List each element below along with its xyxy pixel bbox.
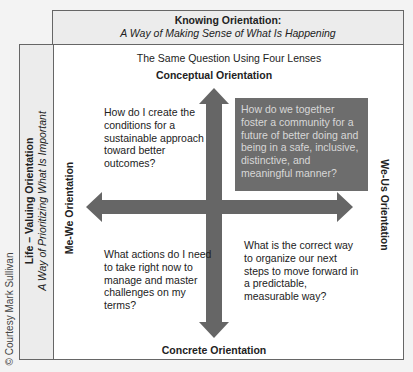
quadrant-bottom-left-question: What actions do I need to take right now…: [104, 248, 216, 312]
axis-label-conceptual: Conceptual Orientation: [54, 69, 374, 81]
axis-label-concrete: Concrete Orientation: [54, 344, 374, 356]
quadrant-bottom-right-question: What is the correct way to organize our …: [244, 239, 359, 303]
axis-label-me-we: Me-We Orientation: [63, 162, 75, 255]
diagram-subtitle: The Same Question Using Four Lenses: [54, 52, 404, 64]
quadrant-top-left-question: How do I create the conditions for a sus…: [104, 106, 216, 170]
axis-label-we-us: We-Us Orientation: [379, 159, 391, 250]
quadrant-top-right-question: How do we together foster a community fo…: [235, 98, 368, 191]
